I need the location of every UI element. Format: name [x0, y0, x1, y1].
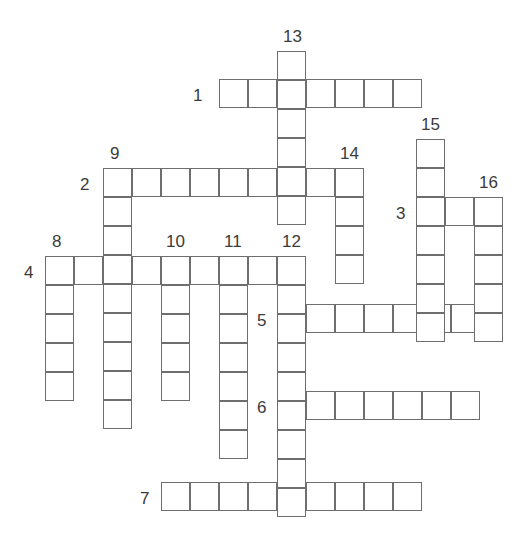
crossword-cell[interactable] — [248, 482, 277, 511]
crossword-cell[interactable] — [161, 314, 190, 343]
crossword-cell[interactable] — [335, 255, 364, 284]
clue-number-16: 16 — [479, 174, 498, 191]
crossword-cell[interactable] — [277, 256, 306, 285]
clue-number-6: 6 — [257, 399, 266, 416]
crossword-cell[interactable] — [364, 482, 393, 511]
crossword-cell[interactable] — [306, 482, 335, 511]
crossword-cell[interactable] — [219, 314, 248, 343]
crossword-cell[interactable] — [45, 372, 74, 401]
crossword-cell[interactable] — [451, 391, 480, 420]
crossword-cell[interactable] — [393, 79, 422, 108]
crossword-cell[interactable] — [393, 482, 422, 511]
crossword-cell[interactable] — [416, 139, 445, 168]
crossword-cell[interactable] — [335, 304, 364, 333]
crossword-cell[interactable] — [335, 168, 364, 197]
crossword-cell[interactable] — [74, 256, 103, 285]
crossword-cell[interactable] — [277, 459, 306, 488]
crossword-cell[interactable] — [277, 488, 306, 517]
crossword-cell[interactable] — [277, 51, 306, 80]
crossword-cell[interactable] — [393, 391, 422, 420]
crossword-cell[interactable] — [161, 285, 190, 314]
crossword-cell[interactable] — [474, 255, 503, 284]
crossword-cell[interactable] — [103, 226, 132, 255]
crossword-cell[interactable] — [335, 391, 364, 420]
crossword-cell[interactable] — [103, 255, 132, 284]
crossword-cell[interactable] — [161, 343, 190, 372]
crossword-cell[interactable] — [190, 256, 219, 285]
crossword-cell[interactable] — [277, 372, 306, 401]
crossword-cell[interactable] — [335, 482, 364, 511]
crossword-cell[interactable] — [416, 197, 445, 226]
crossword-cell[interactable] — [416, 284, 445, 313]
crossword-cell[interactable] — [103, 284, 132, 313]
crossword-cell[interactable] — [277, 80, 306, 109]
crossword-cell[interactable] — [474, 226, 503, 255]
crossword-cell[interactable] — [219, 343, 248, 372]
crossword-cell[interactable] — [474, 313, 503, 342]
crossword-cell[interactable] — [219, 430, 248, 459]
crossword-cell[interactable] — [277, 109, 306, 138]
crossword-cell[interactable] — [277, 430, 306, 459]
crossword-cell[interactable] — [364, 391, 393, 420]
crossword-cell[interactable] — [219, 372, 248, 401]
crossword-cell[interactable] — [219, 168, 248, 197]
crossword-cell[interactable] — [103, 400, 132, 429]
crossword-cell[interactable] — [103, 168, 132, 197]
crossword-cell[interactable] — [277, 138, 306, 167]
crossword-cell[interactable] — [416, 168, 445, 197]
crossword-cell[interactable] — [132, 168, 161, 197]
crossword-cell[interactable] — [45, 343, 74, 372]
crossword-cell[interactable] — [190, 482, 219, 511]
crossword-cell[interactable] — [161, 168, 190, 197]
crossword-cell[interactable] — [219, 401, 248, 430]
crossword-cell[interactable] — [219, 482, 248, 511]
crossword-cell[interactable] — [190, 168, 219, 197]
clue-number-14: 14 — [340, 145, 359, 162]
crossword-cell[interactable] — [306, 168, 335, 197]
crossword-cell[interactable] — [45, 285, 74, 314]
crossword-cell[interactable] — [248, 79, 277, 108]
crossword-cell[interactable] — [277, 285, 306, 314]
crossword-cell[interactable] — [306, 391, 335, 420]
crossword-cell[interactable] — [132, 256, 161, 285]
crossword-cell[interactable] — [103, 313, 132, 342]
crossword-cell[interactable] — [364, 304, 393, 333]
crossword-puzzle: 12345678910111213141516 — [0, 0, 532, 536]
crossword-cell[interactable] — [416, 226, 445, 255]
crossword-cell[interactable] — [277, 196, 306, 225]
crossword-cell[interactable] — [161, 372, 190, 401]
crossword-cell[interactable] — [248, 256, 277, 285]
crossword-cell[interactable] — [306, 304, 335, 333]
clue-number-3: 3 — [396, 205, 405, 222]
crossword-cell[interactable] — [219, 79, 248, 108]
crossword-cell[interactable] — [335, 79, 364, 108]
crossword-cell[interactable] — [364, 79, 393, 108]
crossword-cell[interactable] — [416, 313, 445, 342]
crossword-cell[interactable] — [416, 255, 445, 284]
clue-number-13: 13 — [283, 28, 302, 45]
clue-number-5: 5 — [257, 312, 266, 329]
crossword-cell[interactable] — [45, 314, 74, 343]
crossword-cell[interactable] — [277, 343, 306, 372]
crossword-cell[interactable] — [103, 197, 132, 226]
crossword-cell[interactable] — [103, 342, 132, 371]
crossword-cell[interactable] — [422, 391, 451, 420]
crossword-cell[interactable] — [277, 401, 306, 430]
crossword-cell[interactable] — [445, 197, 474, 226]
crossword-cell[interactable] — [161, 482, 190, 511]
crossword-cell[interactable] — [335, 197, 364, 226]
crossword-cell[interactable] — [474, 284, 503, 313]
crossword-cell[interactable] — [45, 256, 74, 285]
crossword-cell[interactable] — [103, 371, 132, 400]
crossword-cell[interactable] — [306, 79, 335, 108]
clue-number-12: 12 — [282, 233, 301, 250]
clue-number-10: 10 — [166, 233, 185, 250]
crossword-cell[interactable] — [277, 314, 306, 343]
crossword-cell[interactable] — [219, 285, 248, 314]
crossword-cell[interactable] — [161, 256, 190, 285]
crossword-cell[interactable] — [219, 256, 248, 285]
crossword-cell[interactable] — [335, 226, 364, 255]
crossword-cell[interactable] — [277, 167, 306, 196]
crossword-cell[interactable] — [248, 168, 277, 197]
crossword-cell[interactable] — [474, 197, 503, 226]
